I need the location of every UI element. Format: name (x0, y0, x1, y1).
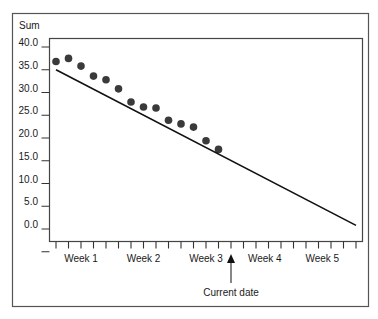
actual-point (177, 120, 185, 128)
burndown-chart: Sum 40.035.030.025.020.015.010.05.00.0 W… (0, 0, 378, 319)
y-tick-label: 20.0 (19, 128, 39, 139)
current-date-label: Current date (203, 287, 259, 298)
y-axis-label: Sum (19, 20, 40, 31)
x-tick-label: Week 5 (305, 253, 339, 264)
actual-point (77, 62, 85, 70)
actual-point (102, 76, 110, 84)
y-tick-label: 5.0 (24, 196, 38, 207)
actual-point (90, 72, 98, 80)
y-tick-label: 35.0 (19, 60, 39, 71)
y-tick-label: 40.0 (19, 37, 39, 48)
y-tick-label: 0.0 (24, 219, 38, 230)
y-tick-label: 10.0 (19, 174, 39, 185)
actual-point (52, 58, 60, 66)
actual-point (152, 104, 160, 112)
x-tick-label: Week 2 (127, 253, 161, 264)
actual-point (190, 123, 198, 131)
actual-point (115, 85, 123, 93)
actual-point (165, 116, 173, 124)
y-tick-label: 15.0 (19, 151, 39, 162)
actual-point (65, 55, 73, 63)
actual-point (140, 103, 148, 111)
x-tick-label: Week 1 (64, 253, 98, 264)
actual-point (127, 98, 135, 106)
y-tick-label: 30.0 (19, 83, 39, 94)
current-date-arrow-head (227, 254, 235, 263)
x-tick-label: Week 4 (248, 253, 282, 264)
ideal-line (56, 70, 356, 226)
x-tick-label: Week 3 (189, 253, 223, 264)
y-tick-label: 25.0 (19, 105, 39, 116)
actual-point (202, 137, 210, 145)
